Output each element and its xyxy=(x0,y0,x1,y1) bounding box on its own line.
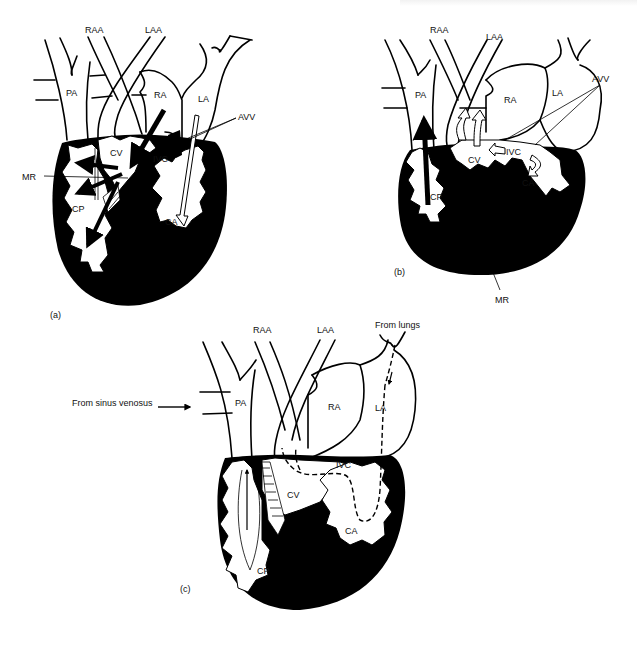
label-ra: RA xyxy=(504,95,517,105)
label-raa: RAA xyxy=(253,325,272,335)
label-from-lungs: From lungs xyxy=(375,320,421,330)
label-ivc: IVC xyxy=(153,154,169,164)
label-ca: CA xyxy=(165,217,178,227)
label-mr: MR xyxy=(22,172,36,182)
label-ra: RA xyxy=(328,402,341,412)
heart-diagram-figure: RAA LAA PA RA LA AVV CV IVC MR CP CA (a) xyxy=(0,0,637,650)
label-cp: CP xyxy=(257,566,270,576)
label-laa: LAA xyxy=(486,32,503,42)
label-from-sinus-venosus: From sinus venosus xyxy=(72,398,153,408)
panel-a: RAA LAA PA RA LA AVV CV IVC MR CP CA (a) xyxy=(22,25,255,320)
label-ivc: IVC xyxy=(336,460,352,470)
label-cv: CV xyxy=(110,148,123,158)
label-la: LA xyxy=(375,403,386,413)
label-la: LA xyxy=(198,94,209,104)
label-raa: RAA xyxy=(85,25,104,35)
caption-a: (a) xyxy=(50,310,61,320)
label-cv: CV xyxy=(468,155,481,165)
label-avv: AVV xyxy=(238,112,255,122)
label-laa: LAA xyxy=(145,25,162,35)
caption-c: (c) xyxy=(180,584,191,594)
label-pa: PA xyxy=(66,88,77,98)
label-cv: CV xyxy=(287,490,300,500)
label-avv: AVV xyxy=(592,74,609,84)
caption-b: (b) xyxy=(394,267,405,277)
label-cp: CP xyxy=(430,192,443,202)
label-ivc: IVC xyxy=(506,147,522,157)
label-pa: PA xyxy=(235,398,246,408)
panel-c-vessels xyxy=(200,332,416,460)
label-laa: LAA xyxy=(317,325,334,335)
label-la: LA xyxy=(552,88,563,98)
label-ca: CA xyxy=(345,526,358,536)
label-pa: PA xyxy=(415,90,426,100)
label-ca: CA xyxy=(522,178,535,188)
label-ra: RA xyxy=(154,90,167,100)
label-raa: RAA xyxy=(430,25,449,35)
label-mr: MR xyxy=(495,295,509,305)
label-cp: CP xyxy=(72,204,85,214)
panel-c: RAA LAA From lungs From sinus venosus PA… xyxy=(72,320,421,610)
panel-b: RAA LAA PA RA LA AVV CV IVC CP CA (b) MR xyxy=(382,25,609,305)
